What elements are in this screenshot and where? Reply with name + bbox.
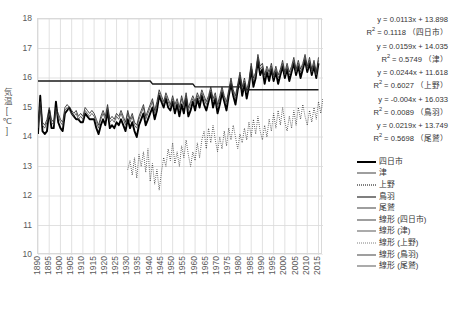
y-tick-label: 11 <box>23 220 32 229</box>
x-tick-label: 1920 <box>100 256 109 275</box>
legend-item[interactable]: 線形 (津) <box>357 226 452 238</box>
regression-annotation: y = 0.0113x + 13.898R2 = 0.1118 （四日市） <box>330 14 452 38</box>
y-tick-label: 10 <box>23 250 32 259</box>
legend-swatch-icon <box>357 238 376 247</box>
y-tick-label: 12 <box>23 191 32 200</box>
regression-r2: R2 = 0.1118 （四日市） <box>330 25 448 38</box>
y-tick-label: 14 <box>23 132 32 141</box>
legend-item[interactable]: 津 <box>357 168 452 180</box>
regression-equation: y = 0.0159x + 14.035 <box>330 41 448 52</box>
regression-annotation: y = 0.0219x + 13.749R2 = 0.5698 （尾鷲） <box>330 120 452 144</box>
legend-item-label: 線形 (津) <box>379 227 410 235</box>
regression-annotations: y = 0.0113x + 13.898R2 = 0.1118 （四日市）y =… <box>330 14 452 147</box>
x-tick-label: 1970 <box>212 256 221 275</box>
regression-equation: y = 0.0219x + 13.749 <box>330 120 448 131</box>
legend-swatch-icon <box>357 250 376 259</box>
x-tick-label: 1975 <box>223 256 232 275</box>
data-series <box>38 54 323 190</box>
plot-area <box>37 18 322 254</box>
x-tick-label: 1995 <box>268 256 277 275</box>
legend-swatch-icon <box>357 192 376 201</box>
regression-r2: R2 = 0.5698 （尾鷲） <box>330 131 448 144</box>
regression-equation: y = 0.0113x + 13.898 <box>330 14 448 25</box>
legend-item[interactable]: 尾鷲 <box>357 202 452 214</box>
regression-annotation: y = 0.0244x + 11.618R2 = 0.6027 （上野） <box>330 67 452 91</box>
x-tick-label: 1980 <box>234 256 243 275</box>
legend-item[interactable]: 線形 (尾鷲) <box>357 260 452 272</box>
y-tick-label: 18 <box>23 14 32 23</box>
x-tick-label: 1910 <box>77 256 86 275</box>
plot-svg <box>38 19 323 255</box>
regression-annotation: y = 0.0159x + 14.035R2 = 0.5749 （津） <box>330 41 452 65</box>
x-tick-label: 1965 <box>201 256 210 275</box>
legend-item[interactable]: 線形 (四日市) <box>357 214 452 226</box>
x-tick-label: 1935 <box>133 256 142 275</box>
legend-item-label: 線形 (尾鷲) <box>379 262 418 270</box>
y-tick-label: 16 <box>23 73 32 82</box>
temperature-trend-chart: 気温[℃] 181716151413121110 189018951900190… <box>0 0 452 314</box>
legend-item-label: 津 <box>379 169 387 177</box>
legend-swatch-icon <box>357 227 376 236</box>
x-tick-label: 2015 <box>313 256 322 275</box>
x-tick-label: 1900 <box>55 256 64 275</box>
x-tick-label: 1890 <box>33 256 42 275</box>
x-tick-label: 1960 <box>190 256 199 275</box>
y-tick-label: 17 <box>23 43 32 52</box>
y-tick-label: 13 <box>23 161 32 170</box>
legend-item-label: 尾鷲 <box>379 204 395 212</box>
regression-equation: y = 0.0244x + 11.618 <box>330 67 448 78</box>
x-tick-label: 1930 <box>122 256 131 275</box>
regression-annotation: y = -0.004x + 16.033R2 = 0.0089 （鳥羽） <box>330 94 452 118</box>
legend: 四日市津上野鳥羽尾鷲線形 (四日市)線形 (津)線形 (上野)線形 (鳥羽)線形… <box>357 156 452 272</box>
regression-r2: R2 = 0.0089 （鳥羽） <box>330 105 448 118</box>
x-tick-label: 1950 <box>167 256 176 275</box>
legend-swatch-icon <box>357 215 376 224</box>
x-tick-label: 1945 <box>156 256 165 275</box>
x-tick-label: 2005 <box>291 256 300 275</box>
y-axis-title: 気温[℃] <box>1 88 13 136</box>
x-axis: 1890189519001905191019151920192519301935… <box>37 256 322 312</box>
legend-item-label: 四日市 <box>379 158 403 166</box>
legend-swatch-icon <box>357 204 376 213</box>
x-tick-label: 1905 <box>66 256 75 275</box>
series-line <box>38 81 319 90</box>
x-tick-label: 1915 <box>89 256 98 275</box>
x-tick-label: 1985 <box>246 256 255 275</box>
legend-swatch-icon <box>357 262 376 271</box>
regression-equation: y = -0.004x + 16.033 <box>330 94 448 105</box>
legend-item-label: 鳥羽 <box>379 193 395 201</box>
legend-item[interactable]: 四日市 <box>357 156 452 168</box>
legend-item[interactable]: 線形 (上野) <box>357 237 452 249</box>
legend-item-label: 上野 <box>379 181 395 189</box>
legend-swatch-icon <box>357 180 376 189</box>
gridlines <box>38 19 323 255</box>
legend-item-label: 線形 (上野) <box>379 239 418 247</box>
legend-item-label: 線形 (四日市) <box>379 216 426 224</box>
regression-r2: R2 = 0.6027 （上野） <box>330 78 448 91</box>
legend-swatch-icon <box>357 169 376 178</box>
x-tick-label: 2010 <box>302 256 311 275</box>
x-tick-label: 1925 <box>111 256 120 275</box>
y-axis: 気温[℃] 181716151413121110 <box>0 0 35 254</box>
legend-swatch-icon <box>357 157 376 166</box>
legend-item[interactable]: 線形 (鳥羽) <box>357 249 452 261</box>
legend-item-label: 線形 (鳥羽) <box>379 251 418 259</box>
regression-r2: R2 = 0.5749 （津） <box>330 52 448 65</box>
legend-item[interactable]: 鳥羽 <box>357 191 452 203</box>
x-tick-label: 2000 <box>279 256 288 275</box>
y-tick-label: 15 <box>23 102 32 111</box>
x-tick-label: 1955 <box>178 256 187 275</box>
legend-item[interactable]: 上野 <box>357 179 452 191</box>
x-tick-label: 1990 <box>257 256 266 275</box>
x-tick-label: 1895 <box>44 256 53 275</box>
x-tick-label: 1940 <box>145 256 154 275</box>
